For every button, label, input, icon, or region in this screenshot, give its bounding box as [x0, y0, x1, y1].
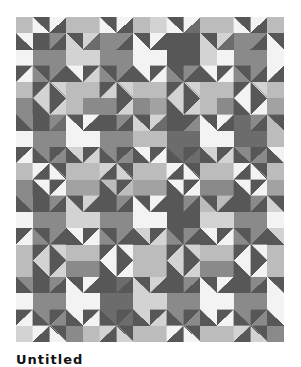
- quilt-pattern: [16, 17, 284, 342]
- caption-text: Untitled: [16, 353, 83, 366]
